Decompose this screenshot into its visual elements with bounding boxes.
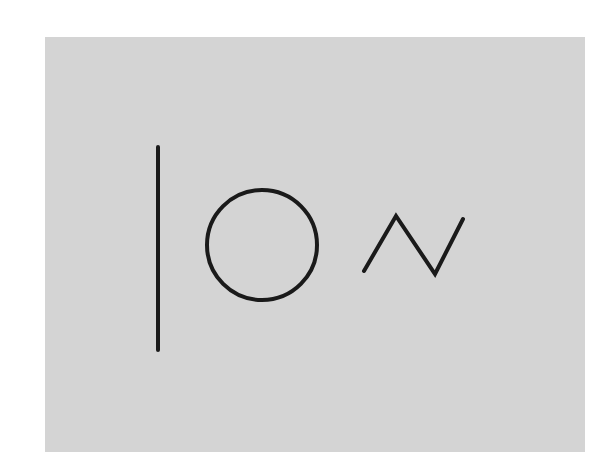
- zigzag-shape: [364, 216, 463, 274]
- circle-shape: [207, 190, 317, 300]
- shapes-canvas: [0, 0, 614, 471]
